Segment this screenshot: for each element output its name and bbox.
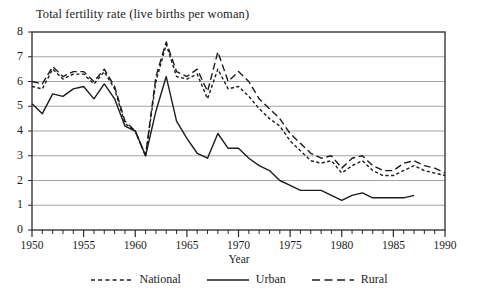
x-axis-tick-label: 1970 [219,239,259,251]
x-axis-title: Year [0,253,478,265]
chart-legend: National Urban Rural [0,272,478,287]
legend-label-national: National [140,272,181,287]
x-axis-tick-label: 1955 [64,239,104,251]
legend-label-rural: Rural [361,272,388,287]
y-axis-tick-label: 5 [5,98,23,113]
x-axis-tick-label: 1990 [425,239,465,251]
x-axis-tick-label: 1975 [270,239,310,251]
series-lines-group [32,42,445,200]
series-line-rural [32,42,445,173]
legend-swatch-urban [207,275,249,285]
y-axis-tick-label: 1 [5,197,23,212]
x-axis-tick-label: 1980 [322,239,362,251]
x-axis-ticks [28,32,445,237]
y-axis-tick-label: 0 [5,222,23,237]
series-line-urban [32,77,414,201]
legend-item-urban: Urban [207,272,286,287]
y-axis-tick-label: 8 [5,24,23,39]
x-axis-tick-label: 1950 [12,239,52,251]
legend-swatch-rural [312,275,354,285]
gridlines-group [32,57,445,206]
legend-label-urban: Urban [256,272,286,287]
x-axis-tick-label: 1960 [115,239,155,251]
y-axis-tick-label: 3 [5,148,23,163]
y-axis-tick-label: 6 [5,74,23,89]
y-axis-tick-label: 4 [5,123,23,138]
fertility-rate-chart-figure: Total fertility rate (live births per wo… [0,0,478,303]
y-axis-tick-label: 2 [5,173,23,188]
y-axis-tick-label: 7 [5,49,23,64]
x-axis-tick-label: 1985 [373,239,413,251]
x-axis-tick-label: 1965 [167,239,207,251]
legend-item-rural: Rural [312,272,388,287]
legend-swatch-national [91,275,133,285]
legend-item-national: National [91,272,181,287]
